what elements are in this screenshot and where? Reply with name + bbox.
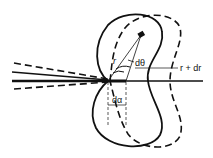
label-r: r: [113, 56, 117, 66]
label-dtheta: dθ: [135, 58, 145, 68]
scatterer-element-icon: [137, 31, 145, 38]
diagram-canvas: r dθ r + dr dα: [0, 0, 213, 158]
beam-edge-lower: [14, 82, 108, 89]
label-r-plus-dr: r + dr: [180, 63, 201, 73]
label-dalpha: dα: [112, 95, 122, 105]
